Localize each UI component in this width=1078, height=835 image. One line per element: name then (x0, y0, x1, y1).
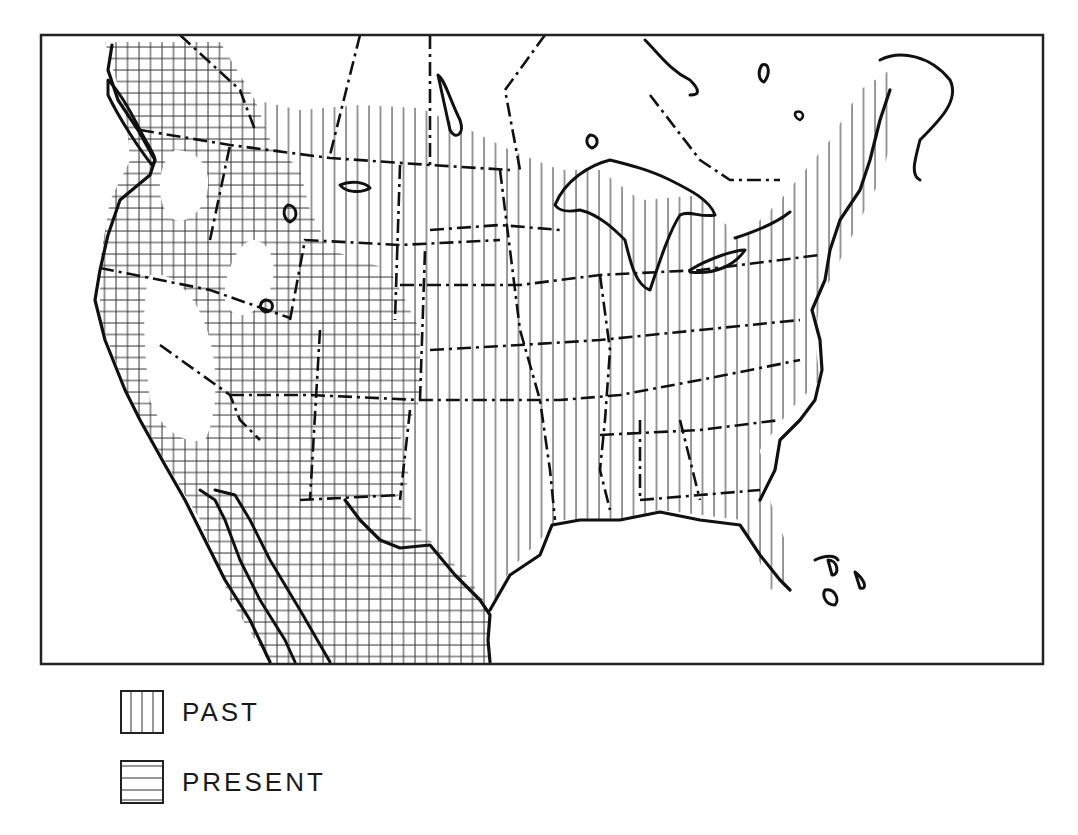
past-swatch-icon (120, 690, 164, 734)
legend-item-past: PAST (120, 690, 260, 734)
present-swatch-icon (120, 760, 164, 804)
legend-label-past: PAST (182, 697, 260, 728)
legend-item-present: PRESENT (120, 760, 326, 804)
legend-label-present: PRESENT (182, 767, 326, 798)
